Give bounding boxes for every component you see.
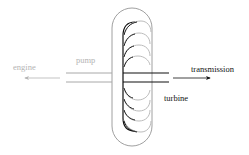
torque-converter-diagram [0,0,249,155]
pump-shaft [66,73,112,82]
turbine-hub [123,22,135,131]
engine-label: engine [13,63,36,72]
turbine-blades [124,22,137,132]
pump-label: pump [76,56,95,65]
transmission-label: transmission [191,65,234,74]
housing-outline [112,8,152,146]
turbine-label: turbine [164,94,188,103]
turbine-shaft [123,73,169,82]
